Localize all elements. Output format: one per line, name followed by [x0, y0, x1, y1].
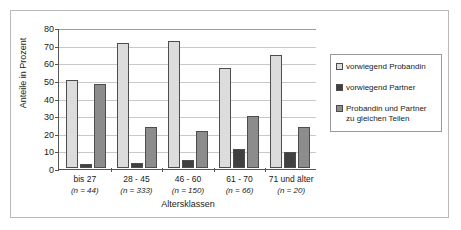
x-tick-label: 71 und älter(n = 20)	[265, 174, 317, 196]
bar-group	[111, 29, 162, 168]
legend-label-probandin: vorwiegend Probandin	[346, 62, 426, 72]
y-tick-40	[55, 100, 59, 101]
bar	[94, 84, 106, 168]
legend-swatch-icon-probandin	[336, 63, 343, 70]
bar-groups	[60, 29, 316, 168]
y-axis-tick-labels: 80706050403020100	[28, 22, 54, 177]
bar-group	[162, 29, 213, 168]
x-tick	[265, 168, 266, 172]
y-tick-10	[55, 152, 59, 153]
legend-swatch-icon-gleichen-teilen	[336, 105, 343, 112]
x-tick-label-text: bis 27	[73, 174, 96, 184]
legend: vorwiegend Probandin vorwiegend Partner …	[330, 54, 442, 132]
x-tick-label-n: (n = 66)	[214, 185, 266, 196]
chart-figure: Anteile in Prozent 80706050403020100 bis…	[0, 0, 461, 230]
legend-item-0: vorwiegend Probandin	[336, 62, 436, 72]
y-tick-20	[55, 135, 59, 136]
y-tick-0	[55, 170, 59, 171]
bar	[131, 163, 143, 168]
bar	[182, 160, 194, 168]
bar-group	[265, 29, 316, 168]
x-tick-label-text: 46 - 60	[175, 174, 201, 184]
y-tick-60	[55, 64, 59, 65]
y-tick-label-70: 70	[44, 42, 54, 52]
bar	[270, 55, 282, 168]
x-axis-title: Altersklassen	[59, 199, 317, 209]
bar	[247, 116, 259, 168]
bar	[233, 149, 245, 168]
bar	[298, 127, 310, 168]
legend-label-gleichen-teilen: Probandin und Partner zu gleichen Teilen	[346, 104, 436, 124]
x-axis-tick-labels: bis 27(n = 44)28 - 45(n = 333)46 - 60(n …	[59, 174, 317, 196]
x-tick-label-n: (n = 333)	[111, 185, 163, 196]
x-tick-label-text: 71 und älter	[269, 174, 314, 184]
y-tick-label-60: 60	[44, 59, 54, 69]
plot-area-wrapper	[58, 29, 316, 170]
y-tick-label-40: 40	[44, 95, 54, 105]
x-tick-label: 28 - 45(n = 333)	[111, 174, 163, 196]
bar	[284, 152, 296, 168]
y-tick-label-50: 50	[44, 77, 54, 87]
x-tick-label-n: (n = 20)	[265, 185, 317, 196]
plot-area	[58, 29, 316, 170]
bar	[80, 164, 92, 168]
bar	[219, 68, 231, 168]
x-tick	[162, 168, 163, 172]
legend-label-partner: vorwiegend Partner	[346, 83, 415, 93]
bar	[66, 80, 78, 168]
y-tick-label-0: 0	[49, 165, 54, 175]
y-tick-50	[55, 82, 59, 83]
x-tick-label-text: 28 - 45	[123, 174, 149, 184]
x-tick-label-n: (n = 150)	[162, 185, 214, 196]
bar	[117, 43, 129, 168]
x-tick-label-n: (n = 44)	[59, 185, 111, 196]
y-tick-label-10: 10	[44, 147, 54, 157]
bar	[145, 127, 157, 168]
legend-item-2: Probandin und Partner zu gleichen Teilen	[336, 104, 436, 124]
y-tick-label-80: 80	[44, 24, 54, 34]
x-tick-label-text: 61 - 70	[226, 174, 252, 184]
y-tick-30	[55, 117, 59, 118]
y-tick-80	[55, 29, 59, 30]
x-tick	[214, 168, 215, 172]
x-tick-label: bis 27(n = 44)	[59, 174, 111, 196]
bar-group	[60, 29, 111, 168]
x-tick-label: 46 - 60(n = 150)	[162, 174, 214, 196]
bar-group	[214, 29, 265, 168]
y-tick-label-20: 20	[44, 130, 54, 140]
x-tick-label: 61 - 70(n = 66)	[214, 174, 266, 196]
y-axis-title: Anteile in Prozent	[18, 3, 28, 143]
y-tick-70	[55, 47, 59, 48]
legend-item-1: vorwiegend Partner	[336, 83, 436, 93]
bar	[196, 131, 208, 168]
bar	[168, 41, 180, 168]
legend-swatch-icon-partner	[336, 84, 343, 91]
x-tick	[111, 168, 112, 172]
y-tick-label-30: 30	[44, 112, 54, 122]
